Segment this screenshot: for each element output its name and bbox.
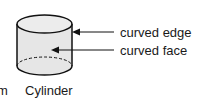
label-curved-edge: curved edge (120, 26, 192, 39)
arrowhead-curved-edge-icon (72, 29, 80, 36)
label-shape-name: Cylinder (25, 84, 73, 97)
cylinder-top-face (17, 15, 72, 33)
label-partial-left: m (0, 84, 8, 97)
label-curved-face: curved face (120, 44, 187, 57)
